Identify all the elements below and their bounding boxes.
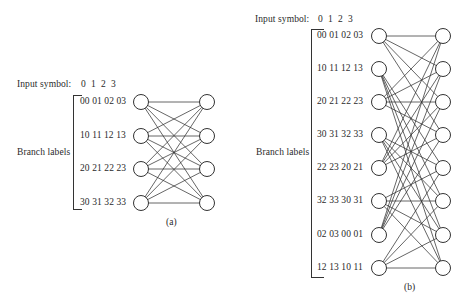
state-label-b-4: 22 23 20 21 [317, 163, 363, 173]
state-node-b-right-1 [436, 62, 451, 77]
trellis-branch-b-3-7 [379, 135, 443, 268]
state-label-b-7: 12 13 10 11 [317, 263, 363, 273]
state-node-b-right-2 [436, 95, 451, 110]
state-node-b-left-2 [372, 95, 387, 110]
state-label-b-5: 32 33 30 31 [317, 196, 363, 206]
state-node-b-left-4 [372, 161, 387, 176]
branch-labels-title-b: Branch labels [256, 148, 309, 158]
input-symbol-1-b: 1 [328, 15, 333, 25]
caption-b: (b) [404, 283, 415, 293]
state-label-b-3: 30 31 32 33 [317, 130, 363, 140]
state-node-b-right-3 [436, 128, 451, 143]
trellis-branch-b-7-4 [379, 168, 443, 268]
trellis-branch-b-6-2 [379, 102, 443, 235]
input-symbol-2-b: 2 [338, 15, 343, 25]
trellis-branch-b-0-1 [379, 36, 443, 69]
input-symbol-label-b: Input symbol: [255, 15, 309, 25]
state-node-b-left-3 [372, 128, 387, 143]
state-label-b-6: 02 03 00 01 [317, 230, 363, 240]
trellis-branch-b-6-0 [379, 36, 443, 235]
state-label-b-2: 20 21 22 23 [317, 97, 363, 107]
trellis-diagram-b: Input symbol: 0 1 2 3 Branch labels 00 0… [0, 0, 474, 302]
state-label-b-1: 10 11 12 13 [317, 64, 363, 74]
state-node-b-left-5 [372, 194, 387, 209]
state-label-b-0: 00 01 02 03 [317, 31, 363, 41]
state-node-b-left-7 [372, 261, 387, 276]
input-symbol-0-b: 0 [318, 15, 323, 25]
state-node-b-left-1 [372, 62, 387, 77]
state-node-b-left-0 [372, 29, 387, 44]
trellis-branch-b-2-1 [379, 69, 443, 102]
input-symbol-3-b: 3 [348, 15, 353, 25]
trellis-branch-b-7-6 [379, 235, 443, 268]
trellis-edges-b [0, 0, 474, 302]
trellis-figure: Input symbol: 0 1 2 3 Branch labels 00 0… [0, 0, 474, 302]
state-node-b-right-4 [436, 161, 451, 176]
state-node-b-right-7 [436, 261, 451, 276]
state-node-b-right-5 [436, 194, 451, 209]
state-node-b-left-6 [372, 228, 387, 243]
state-node-b-right-6 [436, 228, 451, 243]
state-node-b-right-0 [436, 29, 451, 44]
